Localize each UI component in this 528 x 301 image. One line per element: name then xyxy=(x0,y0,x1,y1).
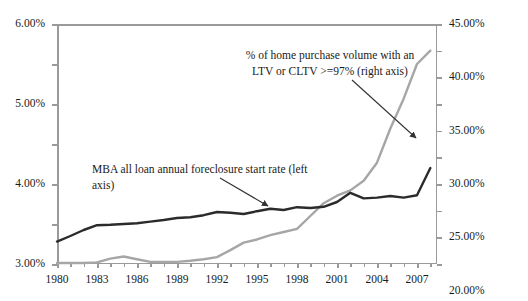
x-axis-tick-major: 2001 xyxy=(337,264,339,268)
right-axis-tick: 35.00% xyxy=(437,77,442,79)
x-axis-tick-label: 1986 xyxy=(126,274,149,286)
right-axis-tick-label: 35.00% xyxy=(449,125,484,137)
x-axis-tick-minor xyxy=(310,264,312,267)
right-axis-tick: 5.00% xyxy=(437,237,442,239)
right-axis-tick: 0.00% xyxy=(437,264,442,266)
x-axis-tick-label: 1995 xyxy=(246,274,269,286)
x-axis-tick-minor xyxy=(230,264,232,267)
foreclosure-ltv-chart: 0.00%1.00%2.00%3.00%4.00%5.00%6.00% 0.00… xyxy=(0,0,528,301)
x-axis-tick-major: 1989 xyxy=(177,264,179,268)
right-axis-tick: 10.00% xyxy=(437,211,442,213)
left-axis-tick-label: 5.00% xyxy=(15,98,45,110)
right-axis-tick: 20.00% xyxy=(437,157,442,159)
right-axis-tick: 45.00% xyxy=(437,24,442,26)
ltv-annotation-arrow-icon xyxy=(350,78,428,148)
x-axis-tick-minor xyxy=(110,264,112,267)
x-axis-tick-minor xyxy=(190,264,192,267)
right-axis-tick-label: 30.00% xyxy=(449,178,484,190)
x-axis-tick-minor xyxy=(244,264,246,267)
x-axis-tick-minor xyxy=(284,264,286,267)
x-axis-tick-label: 2004 xyxy=(366,274,389,286)
x-axis-tick-label: 1983 xyxy=(86,274,109,286)
right-axis-tick: 15.00% xyxy=(437,184,442,186)
x-axis-tick-major: 2004 xyxy=(377,264,379,268)
mba-annotation-arrow-icon xyxy=(218,176,280,214)
left-axis-tick-label: 3.00% xyxy=(15,258,45,270)
x-axis-tick-major: 1992 xyxy=(217,264,219,268)
x-axis-tick-major: 1983 xyxy=(97,264,99,268)
x-axis-tick-label: 2007 xyxy=(406,274,429,286)
right-axis-tick: 40.00% xyxy=(437,51,442,53)
x-axis-tick-minor xyxy=(70,264,72,267)
right-axis-tick-label: 25.00% xyxy=(449,232,484,244)
x-axis-tick-minor xyxy=(270,264,272,267)
x-axis-tick-major: 1995 xyxy=(257,264,259,268)
x-axis-tick-minor xyxy=(164,264,166,267)
x-axis-tick-major: 2007 xyxy=(417,264,419,268)
x-axis-tick-minor xyxy=(124,264,126,267)
x-axis-tick-minor xyxy=(84,264,86,267)
x-axis-tick-label: 1992 xyxy=(206,274,229,286)
x-axis-tick-minor xyxy=(430,264,432,267)
x-axis-tick-label: 1998 xyxy=(286,274,309,286)
left-axis-tick-label: 6.00% xyxy=(15,18,45,30)
x-axis-tick-minor xyxy=(390,264,392,267)
right-axis-tick: 30.00% xyxy=(437,104,442,106)
x-axis-tick-label: 1980 xyxy=(46,274,69,286)
x-axis-tick-minor xyxy=(324,264,326,267)
right-axis-tick-label: 45.00% xyxy=(449,18,484,30)
x-axis-tick-minor xyxy=(404,264,406,267)
right-axis-tick: 25.00% xyxy=(437,131,442,133)
x-axis-tick-major: 1986 xyxy=(137,264,139,268)
x-axis-tick-major: 1980 xyxy=(57,264,59,268)
ltv-series-annotation: % of home purchase volume with an LTV or… xyxy=(232,48,428,79)
left-axis-tick-label: 4.00% xyxy=(15,178,45,190)
x-axis-tick-label: 1989 xyxy=(166,274,189,286)
x-axis-tick-minor xyxy=(350,264,352,267)
right-axis-tick-label: 20.00% xyxy=(449,285,484,297)
mba-series-annotation: MBA all loan annual foreclosure start ra… xyxy=(92,162,322,193)
x-axis-tick-minor xyxy=(204,264,206,267)
x-axis-tick-label: 2001 xyxy=(326,274,349,286)
right-axis-tick-label: 40.00% xyxy=(449,72,484,84)
x-axis-tick-major: 1998 xyxy=(297,264,299,268)
x-axis-tick-minor xyxy=(150,264,152,267)
x-axis-tick-minor xyxy=(364,264,366,267)
